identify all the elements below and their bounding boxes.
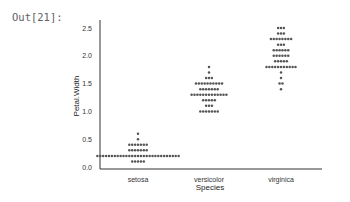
data-point [143,144,146,147]
data-point [190,93,193,96]
data-point [211,99,214,102]
data-point [214,110,217,113]
data-point [283,60,286,63]
data-point [274,66,277,69]
data-point [278,82,281,85]
data-point [131,144,134,147]
data-point [208,66,211,69]
data-point [294,66,297,69]
data-point [284,38,287,41]
data-point [205,93,208,96]
data-point [196,93,199,96]
data-point [208,110,211,113]
data-point [283,66,286,69]
data-point [287,38,290,41]
data-point [271,66,274,69]
data-point [208,93,211,96]
data-point [163,155,166,158]
data-point [201,82,204,85]
data-point [140,155,143,158]
data-point [119,155,122,158]
data-point [131,155,134,158]
y-tick-label: 0.5 [82,136,92,143]
data-point [205,105,208,108]
data-point [286,66,289,69]
data-point [137,160,140,163]
data-point [140,160,143,163]
data-point [102,155,105,158]
x-axis: setosaversicolorvirginica [100,169,322,184]
data-point [198,82,201,85]
data-point [131,149,134,152]
data-point [128,149,131,152]
data-point [211,77,214,80]
y-axis: 0.00.51.01.52.02.5 [82,20,100,171]
data-point [111,155,114,158]
data-point [215,82,218,85]
data-point [208,77,211,80]
data-point [222,93,225,96]
data-point [199,88,202,91]
data-point [280,88,283,91]
data-point [208,105,211,108]
data-point [203,82,206,85]
data-point [99,155,102,158]
data-point [145,149,148,152]
data-point [195,82,198,85]
data-point [286,60,289,63]
data-point [114,155,117,158]
y-tick-label: 1.5 [82,80,92,87]
data-point [221,82,224,85]
y-tick-label: 1.0 [82,108,92,115]
data-point [280,66,283,69]
data-point [288,66,291,69]
data-point [205,88,208,91]
data-point [209,82,212,85]
data-point [216,110,219,113]
x-axis-label: Species [196,183,224,192]
y-tick-label: 0.0 [82,164,92,171]
data-point [225,93,228,96]
data-point [211,110,214,113]
data-point [287,49,290,52]
data-point [140,149,143,152]
data-point [277,43,280,46]
data-point [218,82,221,85]
data-points [96,27,297,163]
data-point [108,155,111,158]
data-point [143,160,146,163]
data-point [169,155,172,158]
data-point [211,105,214,108]
data-point [131,160,134,163]
data-point [214,93,217,96]
swarm-plot: 0.00.51.01.52.02.5 setosaversicolorvirgi… [0,0,350,202]
data-point [145,144,148,147]
data-point [172,155,175,158]
data-point [273,38,276,41]
data-point [277,32,280,35]
data-point [128,144,131,147]
x-tick-label: versicolor [194,176,225,183]
data-point [208,99,211,102]
data-point [290,38,293,41]
data-point [137,155,140,158]
data-point [268,66,271,69]
data-point [208,71,211,74]
data-point [287,55,290,58]
data-point [137,144,140,147]
data-point [202,110,205,113]
data-point [281,38,284,41]
data-point [284,55,287,58]
data-point [216,88,219,91]
data-point [211,88,214,91]
data-point [134,149,137,152]
data-point [219,93,222,96]
data-point [284,49,287,52]
data-point [151,155,154,158]
data-point [270,38,273,41]
y-tick-label: 2.5 [82,25,92,32]
data-point [148,155,151,158]
data-point [291,66,294,69]
data-point [137,132,140,135]
data-point [283,32,286,35]
